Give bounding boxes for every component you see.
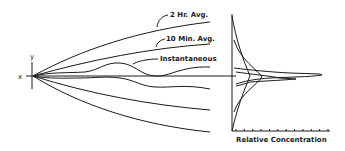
- y-axis-label: y: [30, 53, 34, 61]
- instantaneous-lower-boundary: [33, 76, 210, 89]
- two-hour-label: 2 Hr. Avg.: [170, 11, 208, 19]
- relative-concentration-label: Relative Concentration: [236, 136, 327, 144]
- instantaneous-leader-arrow: [133, 59, 158, 64]
- x-axis-label: x: [18, 73, 22, 81]
- two-hour-upper-boundary: [33, 22, 210, 76]
- two-hour-leader-arrow: [157, 15, 168, 27]
- ten-minute-label: 10 Min. Avg.: [166, 35, 215, 43]
- plume-diagram: x y 2 Hr. Avg. 10 Min. Avg. Instantaneou…: [0, 0, 345, 151]
- ten-minute-leader-arrow: [156, 39, 165, 47]
- instantaneous-upper-boundary: [33, 63, 210, 76]
- instantaneous-label: Instantaneous: [160, 55, 217, 63]
- ten-minute-concentration-profile: [234, 40, 262, 112]
- instantaneous-concentration-profile-low: [236, 72, 296, 86]
- ten-minute-lower-boundary: [33, 76, 210, 110]
- two-hour-lower-boundary: [33, 76, 210, 132]
